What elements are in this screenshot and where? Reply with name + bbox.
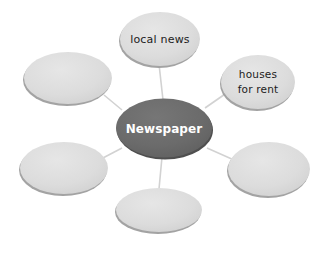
connector-center-to-lower-left (101, 148, 122, 159)
branch-node-top[interactable]: local news (119, 12, 200, 68)
branch-node-lower-right[interactable] (227, 142, 310, 198)
branch-ellipse-lower-left (20, 142, 108, 194)
branch-ellipse-upper-right (221, 55, 295, 109)
diagram-canvas: local news houses for rent Newspaper (0, 0, 323, 256)
connector-center-to-lower-right (207, 148, 234, 160)
branch-node-upper-right[interactable]: houses for rent (220, 55, 295, 111)
branch-label-top: local news (130, 33, 190, 46)
center-node[interactable]: Newspaper (116, 99, 213, 160)
center-label: Newspaper (126, 122, 203, 136)
branch-node-upper-left[interactable] (23, 52, 112, 106)
branch-node-bottom[interactable] (115, 188, 202, 234)
connector-center-to-bottom (159, 157, 162, 189)
branch-label-upper-right-line2: for rent (238, 83, 279, 95)
branch-label-upper-right-line1: houses (239, 68, 277, 80)
branch-ellipse-lower-right (228, 142, 310, 196)
branch-node-lower-left[interactable] (19, 142, 108, 196)
connector-center-to-upper-left (104, 95, 122, 110)
branch-ellipse-bottom (116, 188, 202, 232)
mind-map-diagram: local news houses for rent Newspaper (0, 0, 323, 256)
connector-center-to-top (159, 64, 163, 100)
branch-ellipse-upper-left (24, 52, 112, 104)
